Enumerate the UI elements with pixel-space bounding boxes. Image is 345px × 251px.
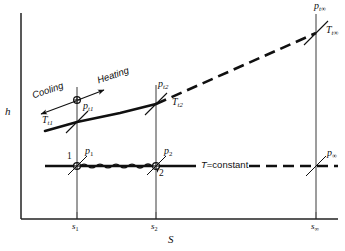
t-constant-text: =constant bbox=[207, 159, 248, 170]
x-tick-sub-s-inf: ∞ bbox=[315, 226, 319, 232]
entropy-gridlines bbox=[77, 14, 316, 212]
label-p-t-inf-sub: t∞ bbox=[319, 5, 326, 12]
x-tick-label-s2: s2 bbox=[151, 222, 158, 232]
label-p-inf: p∞ bbox=[327, 148, 337, 160]
label-p-1-sub: 1 bbox=[90, 150, 93, 157]
label-p-1: p1 bbox=[85, 146, 93, 158]
axis-lines bbox=[21, 13, 338, 219]
label-T-t-inf-sub: t∞ bbox=[332, 29, 339, 36]
label-T-t1: Tt1 bbox=[42, 115, 53, 127]
label-p-2-sub: 2 bbox=[169, 150, 172, 157]
t-constant-label: T=constant bbox=[200, 160, 249, 170]
figure-canvas: h S s1 s2 s∞ Cooling Heating pt1 Tt1 pt2… bbox=[0, 0, 345, 251]
x-axis-ticks bbox=[77, 212, 316, 219]
label-T-t2-sub: t2 bbox=[178, 101, 183, 108]
x-tick-sub-s1: 1 bbox=[76, 226, 79, 232]
y-axis-label: h bbox=[5, 106, 11, 117]
state-point-1-label: 1 bbox=[67, 152, 72, 162]
label-p-t-inf: pt∞ bbox=[314, 1, 326, 13]
label-p-t2-sub: t2 bbox=[163, 83, 168, 90]
label-p-t1: pt1 bbox=[83, 101, 93, 113]
label-p-inf-sub: ∞ bbox=[332, 152, 337, 159]
label-p-2: p2 bbox=[164, 146, 172, 158]
x-tick-label-s1: s1 bbox=[72, 222, 79, 232]
label-T-t-inf: Tt∞ bbox=[326, 25, 338, 37]
label-T-t1-sub: t1 bbox=[48, 119, 53, 126]
x-axis-label: S bbox=[168, 234, 174, 245]
label-p-t2: pt2 bbox=[158, 79, 168, 91]
state-point-2-label: 2 bbox=[159, 169, 164, 179]
label-p-t1-sub: t1 bbox=[88, 105, 93, 112]
stagnation-enthalpy-line bbox=[45, 33, 316, 131]
label-T-t2: Tt2 bbox=[172, 97, 183, 109]
x-tick-label-s-inf: s∞ bbox=[311, 222, 319, 232]
x-tick-sub-s2: 2 bbox=[155, 226, 158, 232]
